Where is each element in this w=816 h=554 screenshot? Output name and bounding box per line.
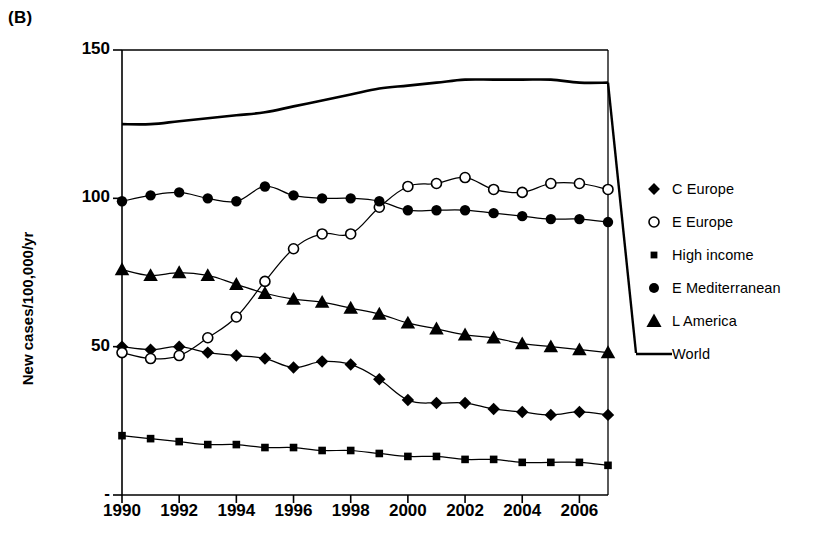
data-point-circle-open [117,348,127,358]
data-point-diamond-filled [487,403,499,415]
data-point-square-filled [433,453,441,461]
data-point-diamond-filled [373,373,385,385]
series-layer [115,79,616,469]
data-point-circle-filled [603,217,613,227]
data-point-square-filled [147,435,155,443]
series-e-europe [117,173,613,364]
x-tick-label: 2002 [435,502,495,519]
y-tick-label: - [50,485,110,502]
data-point-circle-open [346,229,356,239]
data-point-circle-open [517,187,527,197]
legend-label: E Mediterranean [672,280,781,296]
data-point-circle-open [289,244,299,254]
series-l-america [115,262,616,358]
data-point-square-filled [261,444,269,452]
chart-figure: (B) New cases/100,000/yr 15010050- 19901… [0,0,816,554]
world-legend-connector [608,83,636,353]
x-tick-label: 2004 [492,502,552,519]
data-point-triangle-filled [229,277,244,290]
data-point-circle-open [489,184,499,194]
data-point-diamond-filled [430,397,442,409]
data-point-circle-filled [546,214,556,224]
data-point-square-filled [461,456,469,464]
axis-lines [113,50,636,503]
data-point-circle-open [146,354,156,364]
line-icon [636,344,672,364]
data-point-square-filled [118,432,126,440]
legend-item-high-income[interactable]: High income [636,238,814,271]
series-line [122,270,608,353]
data-point-square-filled [404,453,412,461]
data-point-circle-filled [431,205,441,215]
x-tick-label: 1996 [264,502,324,519]
data-point-square-filled [175,438,183,446]
y-tick-label: 100 [50,188,110,205]
series-line [122,177,608,358]
legend-item-e-europe[interactable]: E Europe [636,205,814,238]
data-point-circle-filled [488,208,498,218]
series-e-mediterranean [117,181,613,227]
data-point-circle-open [260,276,270,286]
data-point-circle-open [574,179,584,189]
data-point-circle-filled [374,196,384,206]
data-point-square-filled [547,459,555,467]
data-point-square-filled [576,459,584,467]
data-point-circle-open [403,181,413,191]
data-point-circle-open [203,333,213,343]
data-point-circle-filled [145,190,155,200]
x-tick-label: 1994 [206,502,266,519]
data-point-circle-filled [288,190,298,200]
legend-item-c-europe[interactable]: C Europe [636,172,814,205]
data-point-circle-open [431,179,441,189]
y-tick-label: 50 [50,337,110,354]
data-point-diamond-filled [573,406,585,418]
data-point-diamond-filled [459,397,471,409]
data-point-diamond-filled [648,183,660,195]
data-point-circle-open [460,173,470,183]
data-point-circle-filled [403,205,413,215]
data-point-square-filled [347,447,355,455]
legend-item-l-america[interactable]: L America [636,304,814,337]
data-point-diamond-filled [202,346,214,358]
data-point-circle-filled [260,181,270,191]
y-axis-title: New cases/100,000/yr [19,194,36,424]
data-point-circle-open [317,229,327,239]
data-point-circle-open [546,179,556,189]
data-point-circle-filled [203,193,213,203]
data-point-square-filled [518,459,526,467]
data-point-triangle-filled [172,265,187,278]
chart-legend: C EuropeE EuropeHigh incomeE Mediterrane… [636,172,814,370]
data-point-triangle-filled [115,262,130,275]
legend-item-world[interactable]: World [636,337,814,370]
data-point-square-filled [604,462,612,470]
x-tick-label: 2006 [549,502,609,519]
data-point-circle-filled [317,193,327,203]
legend-label: L America [672,313,737,329]
data-point-diamond-filled [602,409,614,421]
series-line [122,436,608,466]
x-tick-label: 2000 [378,502,438,519]
x-tick-label: 1990 [92,502,152,519]
data-point-triangle-filled [646,313,661,326]
data-point-diamond-filled [516,406,528,418]
data-point-circle-filled [231,196,241,206]
legend-label: E Europe [672,214,733,230]
legend-item-e-mediterranean[interactable]: E Mediterranean [636,271,814,304]
data-point-square-filled [375,450,383,458]
data-point-square-filled [490,456,498,464]
data-point-diamond-filled [344,358,356,370]
panel-label: (B) [8,8,33,28]
data-point-circle-open [231,312,241,322]
data-point-circle-filled [117,196,127,206]
data-point-circle-open [649,217,659,227]
series-line [122,186,608,222]
data-point-diamond-filled [259,352,271,364]
data-point-diamond-filled [316,355,328,367]
data-point-square-filled [651,251,658,258]
square-filled-icon [636,245,672,265]
series-line [122,347,608,415]
data-point-circle-open [174,351,184,361]
data-point-circle-filled [346,193,356,203]
data-point-square-filled [318,447,326,455]
y-axis-tick-labels: 15010050- [48,0,110,554]
